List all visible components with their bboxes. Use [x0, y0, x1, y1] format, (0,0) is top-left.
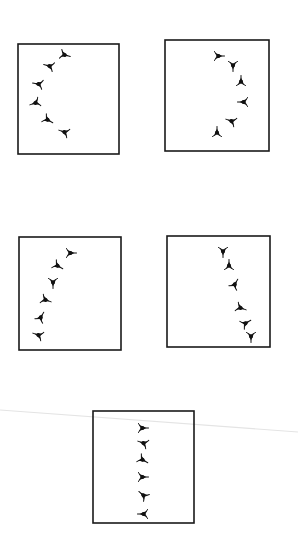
panel-arc-right: [165, 40, 269, 151]
triskelion-marker-icon: [136, 437, 148, 449]
triskelion-marker-icon: [40, 294, 52, 306]
panel-curve-right: [167, 236, 270, 347]
panel-vertical: [93, 411, 194, 523]
triskelion-marker-icon: [31, 329, 43, 341]
triskelion-marker-icon: [215, 52, 225, 61]
triskelion-marker-icon: [136, 488, 149, 501]
triskelion-marker-icon: [43, 60, 55, 71]
panel-arc-left: [18, 44, 119, 154]
triskelion-marker-icon: [139, 473, 149, 482]
triskelion-marker-icon: [224, 115, 236, 127]
triskelion-marker-icon: [28, 97, 40, 109]
triskelion-marker-icon: [139, 424, 149, 433]
triskelion-marker-icon: [235, 302, 247, 314]
triskelion-marker-icon: [213, 127, 222, 137]
triskelion-marker-icon: [59, 49, 71, 60]
triskelion-marker-icon: [57, 126, 69, 138]
triskelion-marker-icon: [35, 310, 48, 323]
triskelion-marker-icon: [247, 333, 256, 343]
triskelion-marker-icon: [138, 510, 148, 519]
figure-canvas: [0, 0, 298, 533]
triskelion-marker-icon: [237, 76, 246, 86]
panel-frame: [167, 236, 270, 347]
triskelion-marker-icon: [52, 260, 65, 273]
triskelion-marker-icon: [67, 249, 77, 258]
triskelion-marker-icon: [49, 279, 58, 289]
triskelion-marker-icon: [42, 114, 55, 127]
panel-curve-left: [19, 237, 121, 350]
panel-group: [18, 40, 270, 523]
triskelion-marker-icon: [32, 79, 43, 90]
triskelion-marker-icon: [229, 277, 242, 290]
scan-artifact-line: [0, 410, 298, 432]
triskelion-marker-icon: [240, 316, 253, 329]
triskelion-marker-icon: [225, 260, 234, 270]
triskelion-marker-icon: [238, 98, 248, 107]
triskelion-marker-icon: [137, 454, 150, 467]
panel-frame: [18, 44, 119, 154]
triskelion-marker-icon: [229, 62, 238, 72]
triskelion-marker-icon: [219, 248, 228, 258]
